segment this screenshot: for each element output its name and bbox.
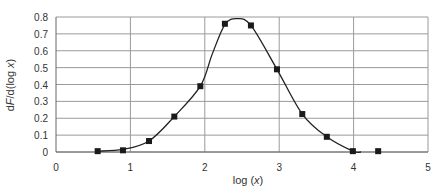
y-tick-label: 0.2	[34, 113, 48, 124]
y-tick-label: 0.7	[34, 29, 48, 40]
x-axis-label: log (x)	[233, 174, 264, 186]
y-tick-label: 0.4	[34, 80, 48, 91]
data-point-marker	[171, 114, 177, 120]
y-tick-label: 0.6	[34, 46, 48, 57]
y-tick-label: 0.5	[34, 63, 48, 74]
data-points	[95, 21, 381, 154]
x-tick-label: 3	[276, 162, 282, 173]
data-point-marker	[299, 111, 305, 117]
tick-labels: 00.10.20.30.40.50.60.70.8012345	[34, 12, 431, 173]
data-point-marker	[248, 22, 254, 28]
data-point-marker	[146, 138, 152, 144]
y-tick-label: 0.1	[34, 130, 48, 141]
data-point-marker	[375, 148, 381, 154]
y-tick-label: 0	[42, 147, 48, 158]
chart: 00.10.20.30.40.50.60.70.8012345 log (x) …	[0, 0, 442, 196]
data-point-marker	[350, 148, 356, 154]
x-tick-label: 4	[351, 162, 357, 173]
data-point-marker	[222, 21, 228, 27]
data-point-marker	[324, 134, 330, 140]
x-tick-label: 0	[53, 162, 59, 173]
fitted-curve	[98, 19, 361, 153]
x-tick-label: 1	[128, 162, 134, 173]
grid-lines	[56, 17, 428, 152]
y-tick-label: 0.3	[34, 96, 48, 107]
data-point-marker	[120, 147, 126, 153]
data-point-marker	[95, 148, 101, 154]
x-tick-label: 2	[202, 162, 208, 173]
data-point-marker	[274, 66, 280, 72]
curve-path	[98, 19, 361, 153]
y-tick-label: 0.8	[34, 12, 48, 23]
data-point-marker	[197, 83, 203, 89]
x-tick-label: 5	[425, 162, 431, 173]
chart-canvas: 00.10.20.30.40.50.60.70.8012345 log (x) …	[0, 0, 442, 196]
y-axis-label: dF/d(log x)	[4, 59, 16, 112]
